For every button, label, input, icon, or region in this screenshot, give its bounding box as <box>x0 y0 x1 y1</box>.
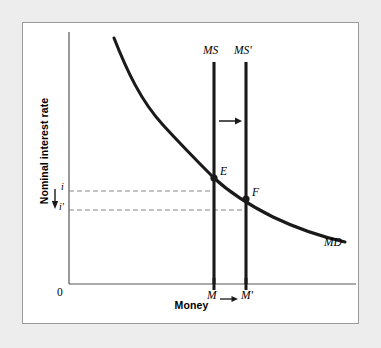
label-equilibrium-F: F <box>252 186 259 198</box>
label-equilibrium-E: E <box>220 165 227 177</box>
label-money-new: M' <box>241 289 253 301</box>
origin-label: 0 <box>57 286 63 298</box>
point-F-marker <box>242 195 249 202</box>
money-demand-curve <box>114 38 345 242</box>
x-axis-title: Money <box>23 299 360 311</box>
money-market-plot <box>23 23 360 325</box>
label-money-initial: M <box>207 289 217 301</box>
supply-shift-arrow-head <box>235 118 242 125</box>
label-money-demand: MD <box>324 236 342 248</box>
x-shift-arrow <box>219 294 241 304</box>
label-money-supply: MS <box>203 44 218 56</box>
label-money-supply-new: MS' <box>234 44 252 56</box>
rate-fall-arrow-head <box>52 201 58 209</box>
label-rate-initial: i <box>61 181 64 192</box>
label-rate-new: i' <box>59 201 64 212</box>
y-axis-title: Nominal interest rate <box>38 81 50 221</box>
figure-panel: Nominal interest rate Money 0 MS MS' MD … <box>22 22 359 324</box>
point-E-marker <box>210 174 217 181</box>
